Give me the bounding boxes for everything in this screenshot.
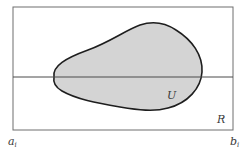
label-r: R (216, 113, 225, 126)
region-u (54, 23, 202, 111)
label-b-i: bi (230, 135, 239, 149)
label-b-subscript: i (237, 141, 239, 149)
label-a-subscript: i (15, 141, 17, 149)
region-diagram: U R ai bi (0, 0, 248, 151)
label-u: U (167, 89, 177, 102)
label-a-i: ai (8, 135, 17, 149)
label-b-base: b (230, 135, 237, 148)
